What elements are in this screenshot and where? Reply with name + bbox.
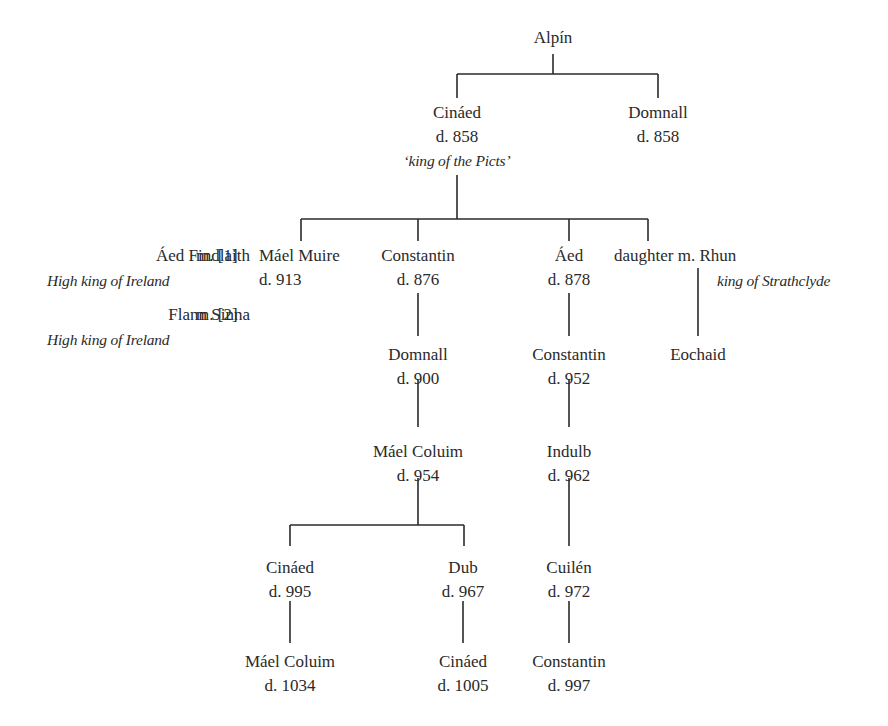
person-name: Constantin — [358, 244, 478, 268]
death-date: d. 878 — [519, 268, 619, 292]
death-date: d. 995 — [240, 580, 340, 604]
person-dub-967: Dub d. 967 — [413, 556, 513, 604]
spouse-title-1: High king of Ireland — [47, 269, 169, 293]
person-name: Dub — [413, 556, 513, 580]
death-date: d. 1005 — [413, 674, 513, 698]
person-daughter-m-rhun: daughter m. Rhun — [614, 244, 736, 268]
person-name: Cináed — [413, 650, 513, 674]
person-cinaed-1005: Cináed d. 1005 — [413, 650, 513, 698]
person-name: Constantin — [509, 650, 629, 674]
death-date: d. 954 — [353, 464, 483, 488]
person-cinaed-858: Cináed d. 858 ‘king of the Picts’ — [387, 101, 527, 173]
death-date: d. 1034 — [225, 674, 355, 698]
person-domnall-858: Domnall d. 858 — [598, 101, 718, 149]
person-domnall-900: Domnall d. 900 — [358, 343, 478, 391]
death-date: d. 913 — [259, 268, 340, 292]
person-name: Cináed — [240, 556, 340, 580]
person-indulb-962: Indulb d. 962 — [519, 440, 619, 488]
person-name: Máel Muire — [259, 244, 340, 268]
death-date: d. 952 — [509, 367, 629, 391]
death-date: d. 972 — [519, 580, 619, 604]
person-name: Eochaid — [648, 343, 748, 367]
person-cinaed-995: Cináed d. 995 — [240, 556, 340, 604]
person-mael-muire: Máel Muire d. 913 — [259, 244, 340, 292]
person-name: Domnall — [358, 343, 478, 367]
person-constantin-997: Constantin d. 997 — [509, 650, 629, 698]
marriage-1-label: m. [1] — [196, 244, 238, 268]
spouse-title-2: High king of Ireland — [47, 328, 169, 352]
person-name: Máel Coluim — [353, 440, 483, 464]
person-mael-coluim-954: Máel Coluim d. 954 — [353, 440, 483, 488]
person-name: Alpín — [503, 26, 603, 50]
death-date: d. 900 — [358, 367, 478, 391]
person-constantin-952: Constantin d. 952 — [509, 343, 629, 391]
person-title: ‘king of the Picts’ — [387, 149, 527, 173]
death-date: d. 858 — [598, 125, 718, 149]
person-alpin: Alpín — [503, 26, 603, 50]
marriage-2-label: m. [2] — [196, 303, 238, 327]
person-name: Máel Coluim — [225, 650, 355, 674]
death-date: d. 997 — [509, 674, 629, 698]
person-name: Indulb — [519, 440, 619, 464]
person-name: Cuilén — [519, 556, 619, 580]
person-cuilen-972: Cuilén d. 972 — [519, 556, 619, 604]
person-mael-coluim-1034: Máel Coluim d. 1034 — [225, 650, 355, 698]
person-name: Domnall — [598, 101, 718, 125]
person-name: Áed — [519, 244, 619, 268]
person-name: Cináed — [387, 101, 527, 125]
death-date: d. 962 — [519, 464, 619, 488]
death-date: d. 876 — [358, 268, 478, 292]
person-name: Constantin — [509, 343, 629, 367]
person-constantin-876: Constantin d. 876 — [358, 244, 478, 292]
rhun-title: king of Strathclyde — [717, 269, 830, 293]
death-date: d. 967 — [413, 580, 513, 604]
death-date: d. 858 — [387, 125, 527, 149]
person-aed-878: Áed d. 878 — [519, 244, 619, 292]
person-eochaid: Eochaid — [648, 343, 748, 367]
